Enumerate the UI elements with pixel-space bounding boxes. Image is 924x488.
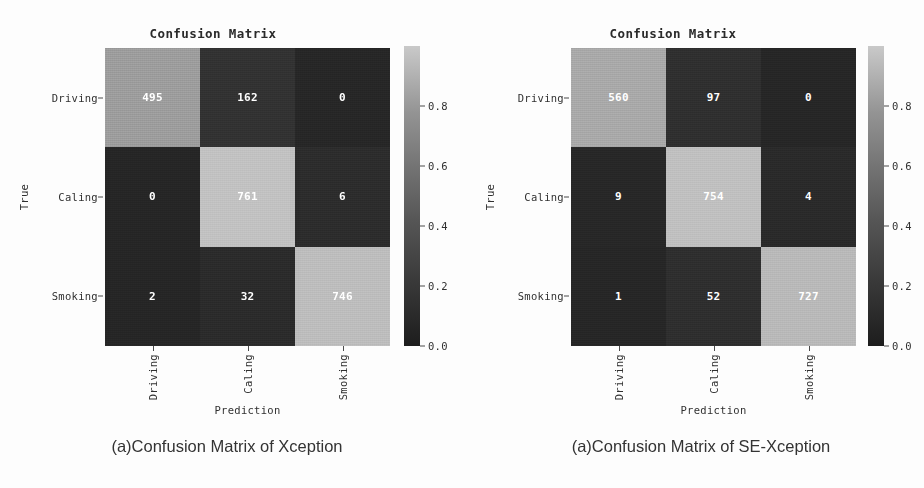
x-tick-label-driving: Driving (613, 354, 625, 400)
y-tick-mark-smoking (564, 296, 569, 297)
cell-value: 1 (615, 291, 622, 302)
x-tick-label-driving: Driving (147, 354, 159, 400)
x-tick-label-calling: Caling (708, 354, 720, 394)
colorbar-tick-mark-02 (420, 286, 425, 287)
cell-value: 560 (608, 92, 628, 103)
colorbar-tick-mark-02 (884, 286, 889, 287)
matrix-cell-2-1[interactable]: 32 (200, 247, 295, 346)
colorbar-tick-mark-08 (420, 106, 425, 107)
y-tick-label-smoking: Smoking (518, 290, 564, 302)
colorbar-tick-mark-06 (884, 166, 889, 167)
y-tick-label-smoking: Smoking (52, 290, 98, 302)
colorbar-tick-label-02: 0.2 (892, 280, 912, 292)
matrix-cell-1-1[interactable]: 754 (666, 147, 761, 246)
cell-value: 0 (149, 191, 156, 202)
y-tick-label-driving: Driving (518, 92, 564, 104)
y-axis-title: True (18, 184, 30, 211)
matrix-cell-1-0[interactable]: 0 (105, 147, 200, 246)
cell-value: 754 (703, 191, 723, 202)
cell-value: 52 (707, 291, 721, 302)
panel-caption: (a)Confusion Matrix of Xception (0, 437, 458, 456)
colorbar: 0.8 0.6 0.4 0.2 0.0 (868, 46, 884, 346)
matrix-cell-2-2[interactable]: 727 (761, 247, 856, 346)
x-tick-label-smoking: Smoking (803, 354, 815, 400)
y-tick-mark-calling (564, 197, 569, 198)
y-tick-mark-driving (564, 97, 569, 98)
colorbar-tick-label-06: 0.6 (892, 160, 912, 172)
x-tick-mark-driving (619, 346, 620, 351)
matrix-cell-1-0[interactable]: 9 (571, 147, 666, 246)
matrix-cell-0-2[interactable]: 0 (761, 48, 856, 147)
y-tick-mark-driving (98, 97, 103, 98)
x-axis-title: Prediction (105, 404, 390, 416)
panel-se-xception: Confusion Matrix Driving Caling Smoking … (462, 0, 924, 488)
colorbar-tick-label-04: 0.4 (428, 220, 448, 232)
x-axis-title: Prediction (571, 404, 856, 416)
cell-value: 727 (798, 291, 818, 302)
cell-value: 97 (707, 92, 721, 103)
cell-value: 2 (149, 291, 156, 302)
panel-caption: (a)Confusion Matrix of SE-Xception (470, 437, 924, 456)
matrix-cell-0-0[interactable]: 560 (571, 48, 666, 147)
matrix-cell-1-2[interactable]: 4 (761, 147, 856, 246)
y-tick-label-calling: Caling (524, 191, 564, 203)
matrix-cell-1-2[interactable]: 6 (295, 147, 390, 246)
cell-value: 0 (805, 92, 812, 103)
matrix-cell-2-0[interactable]: 2 (105, 247, 200, 346)
matrix-cell-0-1[interactable]: 97 (666, 48, 761, 147)
colorbar-tick-label-04: 0.4 (892, 220, 912, 232)
cell-value: 162 (237, 92, 257, 103)
y-axis-title: True (484, 184, 496, 211)
cell-value: 761 (237, 191, 257, 202)
y-tick-mark-calling (98, 197, 103, 198)
heatmap-grid: 560 97 0 9 754 4 1 52 727 (571, 48, 856, 346)
cell-value: 495 (142, 92, 162, 103)
colorbar-tick-label-00: 0.0 (428, 340, 448, 352)
colorbar-tick-mark-08 (884, 106, 889, 107)
colorbar-tick-mark-04 (884, 226, 889, 227)
colorbar-tick-label-00: 0.0 (892, 340, 912, 352)
y-tick-mark-smoking (98, 296, 103, 297)
x-tick-mark-calling (714, 346, 715, 351)
cell-value: 6 (339, 191, 346, 202)
cell-value: 746 (332, 291, 352, 302)
cell-value: 9 (615, 191, 622, 202)
cell-value: 4 (805, 191, 812, 202)
cell-value: 0 (339, 92, 346, 103)
colorbar-tick-mark-00 (420, 346, 425, 347)
colorbar-tick-label-08: 0.8 (428, 100, 448, 112)
colorbar-tick-label-08: 0.8 (892, 100, 912, 112)
x-tick-mark-calling (248, 346, 249, 351)
matrix-cell-0-2[interactable]: 0 (295, 48, 390, 147)
colorbar-tick-mark-06 (420, 166, 425, 167)
matrix-cell-0-0[interactable]: 495 (105, 48, 200, 147)
colorbar-tick-label-06: 0.6 (428, 160, 448, 172)
panel-xception: Confusion Matrix Driving Caling Smoking … (0, 0, 462, 488)
x-tick-label-smoking: Smoking (337, 354, 349, 400)
matrix-cell-0-1[interactable]: 162 (200, 48, 295, 147)
x-tick-mark-driving (153, 346, 154, 351)
y-axis-tick-labels: Driving Caling Smoking (0, 48, 98, 346)
colorbar-tick-label-02: 0.2 (428, 280, 448, 292)
matrix-cell-1-1[interactable]: 761 (200, 147, 295, 246)
matrix-cell-2-1[interactable]: 52 (666, 247, 761, 346)
plot-title: Confusion Matrix (0, 26, 444, 41)
x-tick-label-calling: Caling (242, 354, 254, 394)
heatmap-grid: 495 162 0 0 761 6 2 32 746 (105, 48, 390, 346)
colorbar: 0.8 0.6 0.4 0.2 0.0 (404, 46, 420, 346)
colorbar-tick-mark-00 (884, 346, 889, 347)
cell-value: 32 (241, 291, 255, 302)
matrix-cell-2-0[interactable]: 1 (571, 247, 666, 346)
colorbar-gradient (404, 46, 420, 346)
matrix-cell-2-2[interactable]: 746 (295, 247, 390, 346)
y-tick-label-driving: Driving (52, 92, 98, 104)
y-axis-tick-labels: Driving Caling Smoking (462, 48, 564, 346)
plot-title: Confusion Matrix (442, 26, 904, 41)
x-tick-mark-smoking (343, 346, 344, 351)
heatmap-matrix: 560 97 0 9 754 4 1 52 727 (571, 48, 856, 346)
heatmap-matrix: 495 162 0 0 761 6 2 32 746 (105, 48, 390, 346)
confusion-matrix-figure: Confusion Matrix Driving Caling Smoking … (0, 0, 924, 488)
y-tick-label-calling: Caling (58, 191, 98, 203)
colorbar-tick-mark-04 (420, 226, 425, 227)
x-tick-mark-smoking (809, 346, 810, 351)
